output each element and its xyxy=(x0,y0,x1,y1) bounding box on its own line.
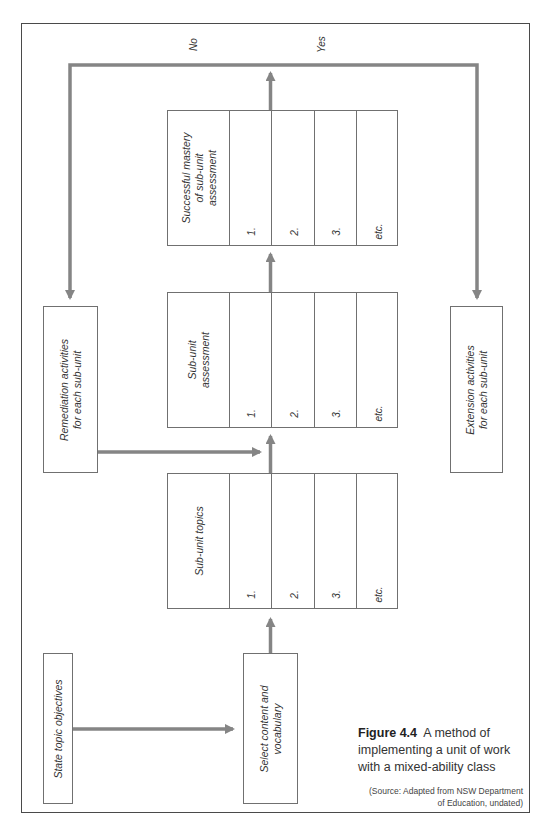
remediation-text: Remediation activities for each sub-unit xyxy=(58,338,84,440)
select-content-line2: vocabulary xyxy=(271,685,284,772)
state-objectives-text: State topic objectives xyxy=(52,679,65,778)
assessment-item-1: 1. xyxy=(229,293,272,427)
mastery-header-line2: of sub-unit xyxy=(192,132,205,223)
topics-table: Sub-unit topics 1. 2. 3. etc. xyxy=(167,473,398,609)
topics-item-etc: etc. xyxy=(356,474,399,608)
item-number: etc. xyxy=(373,223,384,239)
item-number: 3. xyxy=(331,409,342,417)
topics-header-line1: Sub-unit topics xyxy=(192,506,205,575)
item-number: 1. xyxy=(246,590,257,598)
mastery-item-1: 1. xyxy=(229,111,272,245)
assessment-header-line2: assessment xyxy=(199,332,212,388)
topics-header-cell: Sub-unit topics xyxy=(168,474,229,608)
mastery-header-cell: Successful mastery of sub-unit assessmen… xyxy=(168,111,229,245)
mastery-header: Successful mastery of sub-unit assessmen… xyxy=(179,132,218,223)
figure-number: Figure 4.4 xyxy=(358,726,417,740)
item-number: 3. xyxy=(331,590,342,598)
item-number: etc. xyxy=(373,586,384,602)
remediation-box: Remediation activities for each sub-unit xyxy=(43,306,98,473)
figure-source: (Source: Adapted from NSW Department of … xyxy=(340,785,523,809)
mastery-item-2: 2. xyxy=(271,111,315,245)
state-objectives-box: State topic objectives xyxy=(43,653,73,804)
item-number: 2. xyxy=(288,590,299,598)
assessment-item-etc: etc. xyxy=(356,293,399,427)
extension-box: Extension activities for each sub-unit xyxy=(450,306,503,473)
decision-no-label: No xyxy=(188,38,199,51)
remediation-line1: Remediation activities xyxy=(58,338,71,440)
topics-item-2: 2. xyxy=(271,474,315,608)
figure-caption: Figure 4.4 A method of implementing a un… xyxy=(358,725,528,776)
mastery-item-3: 3. xyxy=(314,111,357,245)
topics-header: Sub-unit topics xyxy=(192,506,205,575)
assessment-item-3: 3. xyxy=(314,293,357,427)
item-number: 2. xyxy=(288,227,299,235)
select-content-text: Select content and vocabulary xyxy=(258,685,284,772)
item-number: 1. xyxy=(246,227,257,235)
item-number: 1. xyxy=(246,409,257,417)
assessment-table: Sub-unit assessment 1. 2. 3. etc. xyxy=(167,292,398,428)
extension-text: Extension activities for each sub-unit xyxy=(464,345,490,434)
mastery-table: Successful mastery of sub-unit assessmen… xyxy=(167,110,398,246)
assessment-header-cell: Sub-unit assessment xyxy=(168,293,229,427)
source-line1: (Source: Adapted from NSW Department xyxy=(340,785,523,797)
mastery-header-line3: assessment xyxy=(205,132,218,223)
assessment-header-line1: Sub-unit xyxy=(186,332,199,388)
mastery-item-etc: etc. xyxy=(356,111,399,245)
decision-yes-label: Yes xyxy=(316,36,327,53)
mastery-header-line1: Successful mastery xyxy=(179,132,192,223)
select-content-box: Select content and vocabulary xyxy=(243,653,298,804)
item-number: 2. xyxy=(288,409,299,417)
extension-line2: for each sub-unit xyxy=(477,345,490,434)
assessment-item-2: 2. xyxy=(271,293,315,427)
item-number: 3. xyxy=(331,227,342,235)
diagram-stage: No Yes Successful mastery of sub-unit as… xyxy=(0,0,551,835)
assessment-header: Sub-unit assessment xyxy=(186,332,212,388)
select-content-line1: Select content and xyxy=(258,685,271,772)
topics-item-1: 1. xyxy=(229,474,272,608)
item-number: etc. xyxy=(373,405,384,421)
remediation-line2: for each sub-unit xyxy=(71,338,84,440)
extension-line1: Extension activities xyxy=(464,345,477,434)
source-line2: of Education, undated) xyxy=(340,797,523,809)
topics-item-3: 3. xyxy=(314,474,357,608)
